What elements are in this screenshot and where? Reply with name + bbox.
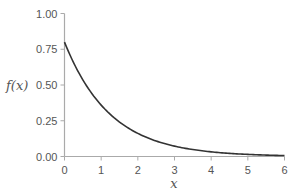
x-tick-label: 0 <box>61 164 67 176</box>
x-axis: 0123456 <box>61 157 287 176</box>
x-tick-label: 1 <box>98 164 104 176</box>
x-tick-label: 3 <box>171 164 177 176</box>
y-axis-label: f(x) <box>5 78 28 93</box>
x-tick-label: 2 <box>135 164 141 176</box>
chart: 0.000.250.500.751.00 0123456 f(x) x <box>0 0 296 195</box>
y-tick-label: 0.75 <box>36 43 57 55</box>
x-tick-label: 4 <box>208 164 214 176</box>
x-axis-label: x <box>170 176 178 191</box>
x-tick-label: 5 <box>245 164 251 176</box>
y-tick-label: 0.50 <box>36 79 57 91</box>
x-tick-label: 6 <box>281 164 287 176</box>
y-tick-label: 1.00 <box>36 8 57 20</box>
y-tick-label: 0.00 <box>36 151 57 163</box>
y-axis: 0.000.250.500.751.00 <box>36 8 64 163</box>
y-tick-label: 0.25 <box>36 115 57 127</box>
data-line <box>65 42 285 155</box>
